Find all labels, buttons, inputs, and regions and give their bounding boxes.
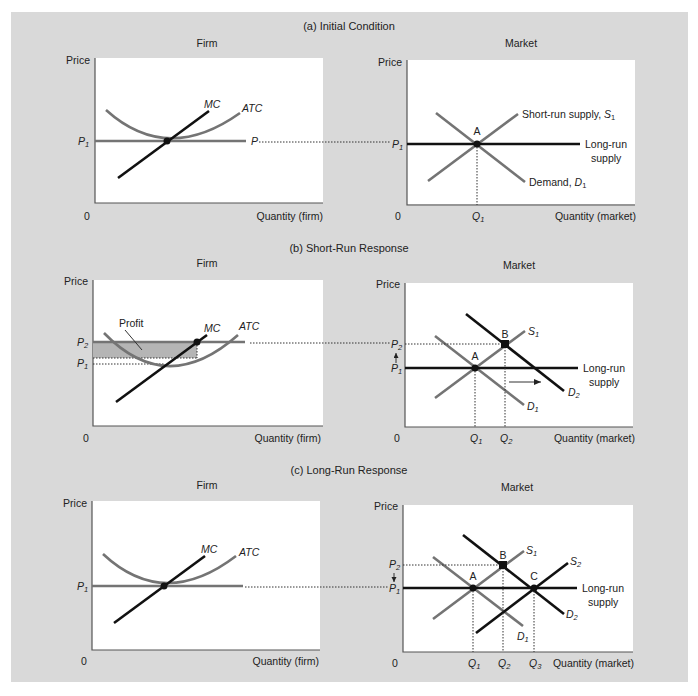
firm-title: Firm bbox=[197, 37, 218, 49]
y-axis-label: Price bbox=[374, 500, 398, 512]
atc-label: ATC bbox=[238, 320, 260, 332]
panel-c-firm-chart: Firm Price Quantity (firm) 0 MC ATC P1 bbox=[63, 479, 388, 667]
short-run-supply-label: Short-run supply, S1 bbox=[522, 108, 615, 122]
q2-label: Q2 bbox=[500, 432, 513, 446]
origin-label: 0 bbox=[84, 210, 90, 222]
point-b-label: B bbox=[499, 549, 506, 561]
origin-label: 0 bbox=[81, 655, 87, 667]
point-c-label: C bbox=[530, 570, 538, 582]
panel-b-title: (b) Short-Run Response bbox=[289, 242, 408, 254]
x-axis-label: Quantity (market) bbox=[554, 432, 635, 444]
y-axis-label: Price bbox=[378, 56, 402, 68]
long-run-supply-label-2: supply bbox=[589, 376, 620, 388]
y-axis-label: Price bbox=[376, 278, 400, 290]
x-axis-label: Quantity (firm) bbox=[252, 655, 319, 667]
long-run-supply-label-1: Long-run bbox=[585, 138, 627, 150]
point-b-label: B bbox=[501, 328, 508, 340]
p1-label: P1 bbox=[77, 580, 88, 594]
panel-a-title: (a) Initial Condition bbox=[303, 20, 395, 32]
origin-label: 0 bbox=[394, 432, 400, 444]
p1-label: P1 bbox=[392, 138, 403, 152]
panel-a-firm-chart: Firm Price Quantity (firm) 0 MC ATC P1 P bbox=[66, 37, 390, 222]
market-title: Market bbox=[505, 37, 537, 49]
panel-a-market-chart: Market Price Quantity (market) 0 A Short… bbox=[378, 37, 636, 224]
origin-label: 0 bbox=[83, 432, 89, 444]
x-axis-label: Quantity (firm) bbox=[254, 432, 321, 444]
point-a-label: A bbox=[471, 350, 478, 362]
y-axis-label: Price bbox=[66, 54, 90, 66]
panel-a: (a) Initial Condition Firm Price Quantit… bbox=[66, 20, 636, 224]
point-a bbox=[474, 141, 481, 148]
x-axis-label: Quantity (market) bbox=[553, 657, 634, 669]
origin-label: 0 bbox=[395, 210, 401, 222]
mc-label: MC bbox=[204, 322, 221, 334]
q1-label: Q1 bbox=[468, 657, 480, 671]
long-run-supply-label-1: Long-run bbox=[583, 362, 625, 374]
long-run-supply-label-1: Long-run bbox=[582, 582, 624, 594]
profit-area bbox=[93, 342, 197, 358]
p1-label: P1 bbox=[77, 357, 88, 371]
origin-label: 0 bbox=[392, 657, 398, 669]
p1-label: P1 bbox=[389, 582, 400, 596]
mc-label: MC bbox=[204, 98, 221, 110]
atc-label: ATC bbox=[238, 546, 260, 558]
panel-c: (c) Long-Run Response Firm Price Quantit… bbox=[63, 464, 634, 671]
q1-label: Q1 bbox=[472, 210, 484, 224]
firm-title: Firm bbox=[197, 257, 218, 269]
point-a bbox=[470, 585, 477, 592]
point-a bbox=[472, 365, 479, 372]
panel-c-market-chart: Market Price Quantity (market) 0 A B C S… bbox=[374, 481, 634, 671]
q1-label: Q1 bbox=[470, 432, 482, 446]
p2-label: P2 bbox=[391, 338, 403, 352]
p1-label: P1 bbox=[78, 135, 89, 149]
market-plot-area bbox=[407, 60, 635, 204]
point-a-label: A bbox=[473, 125, 480, 137]
panel-b: (b) Short-Run Response Firm Price Quanti… bbox=[64, 242, 635, 446]
y-axis-label: Price bbox=[64, 275, 88, 287]
q2-label: Q2 bbox=[498, 657, 511, 671]
equilibrium-point bbox=[164, 138, 171, 145]
x-axis-label: Quantity (firm) bbox=[256, 210, 323, 222]
point-c bbox=[531, 585, 538, 592]
market-title: Market bbox=[503, 259, 535, 271]
competitive-market-figure: (a) Initial Condition Firm Price Quantit… bbox=[0, 0, 698, 696]
p-label: P bbox=[251, 135, 258, 147]
x-axis-label: Quantity (market) bbox=[555, 210, 636, 222]
mc-label: MC bbox=[201, 543, 218, 555]
panel-c-title: (c) Long-Run Response bbox=[291, 464, 408, 476]
point-a-label: A bbox=[469, 570, 476, 582]
panel-b-market-chart: Market Price Quantity (market) 0 A B S1 … bbox=[376, 259, 635, 446]
p1-label: P1 bbox=[391, 362, 402, 376]
long-run-supply-label-2: supply bbox=[588, 596, 619, 608]
y-axis-label: Price bbox=[63, 497, 87, 509]
p2-label: P2 bbox=[77, 336, 89, 350]
profit-max-point bbox=[194, 339, 201, 346]
point-b bbox=[501, 340, 509, 348]
atc-label: ATC bbox=[241, 102, 263, 114]
long-run-supply-label-2: supply bbox=[591, 152, 622, 164]
demand-label: Demand, D1 bbox=[529, 176, 586, 190]
firm-title: Firm bbox=[197, 479, 218, 491]
point-b bbox=[499, 561, 507, 569]
p2-label: P2 bbox=[389, 558, 401, 572]
panel-b-firm-chart: Firm Price Quantity (firm) 0 Profit MC A… bbox=[64, 257, 390, 444]
market-title: Market bbox=[501, 481, 533, 493]
q3-label: Q3 bbox=[529, 657, 542, 671]
equilibrium-point bbox=[161, 583, 168, 590]
profit-label: Profit bbox=[119, 317, 144, 329]
